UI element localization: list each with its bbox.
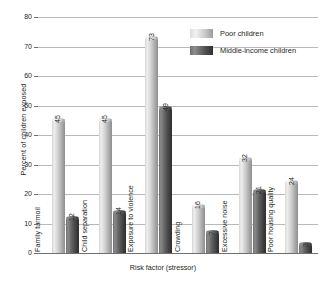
bar-poor xyxy=(285,182,298,253)
y-tick-mark xyxy=(34,17,38,18)
category-label: Poor housing quality xyxy=(266,187,275,252)
bar-middle-income xyxy=(159,108,172,253)
bar-value-label: 45 xyxy=(54,115,61,123)
bar-chart: Percent of children exposed 010203040506… xyxy=(0,0,326,281)
y-tick-label: 80 xyxy=(16,13,32,20)
legend-label-middle: Middle-income children xyxy=(220,46,296,55)
bar-poor xyxy=(239,159,252,253)
bar-middle-income xyxy=(113,212,126,253)
legend-item-poor-children: Poor children xyxy=(190,27,296,40)
y-tick-mark xyxy=(34,135,38,136)
legend-item-middle-income-children: Middle-income children xyxy=(190,44,296,57)
y-tick-mark xyxy=(34,165,38,166)
y-tick-mark xyxy=(34,106,38,107)
y-tick-mark xyxy=(34,253,38,254)
y-tick-label: 60 xyxy=(16,72,32,79)
y-tick-label: 30 xyxy=(16,161,32,168)
bar-poor xyxy=(99,120,112,253)
y-tick-mark xyxy=(34,76,38,77)
y-tick-label: 20 xyxy=(16,190,32,197)
bar-value-label: 21 xyxy=(255,186,262,194)
bar-value-label: 24 xyxy=(288,177,295,185)
legend-swatch-icon-middle xyxy=(190,46,213,55)
y-tick-label: 0 xyxy=(16,249,32,256)
gridline xyxy=(38,106,318,107)
bar-value-label: 14 xyxy=(115,207,122,215)
category-label: Excessive noise xyxy=(220,200,229,252)
bar-value-label: 49 xyxy=(162,104,169,112)
legend-label-poor: Poor children xyxy=(220,29,264,38)
bar-poor xyxy=(52,120,65,253)
category-label: Family turmoil xyxy=(33,207,42,252)
gridline xyxy=(38,76,318,77)
bar-value-label: 32 xyxy=(241,154,248,162)
y-tick-mark xyxy=(34,194,38,195)
bar-middle-income xyxy=(66,218,79,253)
bar-value-label: 3 xyxy=(302,243,309,247)
gridline xyxy=(38,135,318,136)
category-label: Crowding xyxy=(173,222,182,252)
y-tick-mark xyxy=(34,47,38,48)
bar-value-label: 7 xyxy=(208,231,215,235)
gridline xyxy=(38,17,318,18)
y-tick-label: 10 xyxy=(16,220,32,227)
legend-swatch-icon-poor xyxy=(190,29,213,38)
bar-value-label: 16 xyxy=(194,201,201,209)
bar-poor xyxy=(192,206,205,253)
x-axis-title: Risk factor (stressor) xyxy=(0,263,326,272)
bar-value-label: 12 xyxy=(68,213,75,221)
category-label: Exposure to violence xyxy=(126,185,135,252)
x-axis-line xyxy=(38,253,318,254)
gridline xyxy=(38,165,318,166)
y-tick-label: 70 xyxy=(16,43,32,50)
bar-value-label: 45 xyxy=(101,115,108,123)
gridline xyxy=(38,194,318,195)
y-tick-label: 50 xyxy=(16,102,32,109)
bar-poor xyxy=(145,38,158,253)
chart-legend: Poor children Middle-income children xyxy=(190,27,296,61)
category-label: Child separation xyxy=(80,200,89,252)
bar-middle-income xyxy=(206,232,219,253)
bar-value-label: 73 xyxy=(148,33,155,41)
y-tick-label: 40 xyxy=(16,131,32,138)
bar-middle-income xyxy=(253,191,266,253)
